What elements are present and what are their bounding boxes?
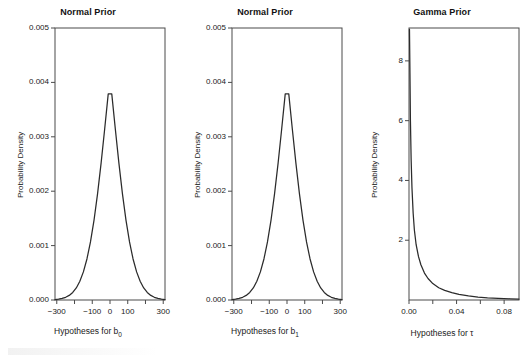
x-tick-label: −300	[37, 307, 77, 316]
plot-panel-normal-prior-b1: Normal Prior Hypotheses for b1 0.0000.00…	[177, 0, 353, 356]
y-axis-label: Probability Density	[16, 132, 25, 198]
plot-panel-gamma-prior-tau: Gamma Prior Hypotheses for τ 24680.000.0…	[354, 0, 530, 356]
x-axis-label-text: Hypotheses for b	[231, 326, 295, 336]
y-tick-label: 0.001	[182, 241, 226, 250]
x-tick-label: 100	[108, 307, 148, 316]
prior-distributions-figure: Normal Prior Hypotheses for b0 0.0000.00…	[0, 0, 530, 356]
y-tick-label: 4	[359, 175, 403, 184]
y-axis-label: Probability Density	[193, 132, 202, 198]
y-axis-label: Probability Density	[370, 132, 379, 198]
y-tick-label: 0.004	[5, 77, 49, 86]
x-axis-label-subscript: 0	[118, 331, 122, 338]
y-tick-label: 0.005	[5, 23, 49, 32]
y-tick-label: 0.003	[5, 132, 49, 141]
x-axis-label-text: Hypotheses for b	[54, 326, 118, 336]
plot-panel-normal-prior-b0: Normal Prior Hypotheses for b0 0.0000.00…	[0, 0, 176, 356]
y-tick-label: 0.002	[5, 186, 49, 195]
y-tick-label: 0.001	[5, 241, 49, 250]
y-tick-label: 0.003	[182, 132, 226, 141]
y-tick-label: 0.000	[182, 295, 226, 304]
y-tick-label: 6	[359, 116, 403, 125]
x-tick-label: 0.08	[484, 307, 524, 316]
x-axis-label-subscript: 1	[295, 331, 299, 338]
x-axis-label-text: Hypotheses for τ	[411, 328, 474, 338]
x-tick-label: 100	[285, 307, 325, 316]
x-axis-label: Hypotheses for b0	[0, 326, 176, 338]
x-axis-label: Hypotheses for τ	[354, 328, 530, 338]
y-tick-label: 0.000	[5, 295, 49, 304]
x-tick-label: −300	[214, 307, 254, 316]
y-tick-label: 0.004	[182, 77, 226, 86]
scan-artifact	[8, 348, 158, 355]
x-tick-label: 0.00	[389, 307, 429, 316]
y-tick-label: 0.005	[182, 23, 226, 32]
y-tick-label: 8	[359, 56, 403, 65]
x-axis-label: Hypotheses for b1	[177, 326, 353, 338]
y-tick-label: 2	[359, 235, 403, 244]
x-tick-label: 0.04	[437, 307, 477, 316]
y-tick-label: 0.002	[182, 186, 226, 195]
